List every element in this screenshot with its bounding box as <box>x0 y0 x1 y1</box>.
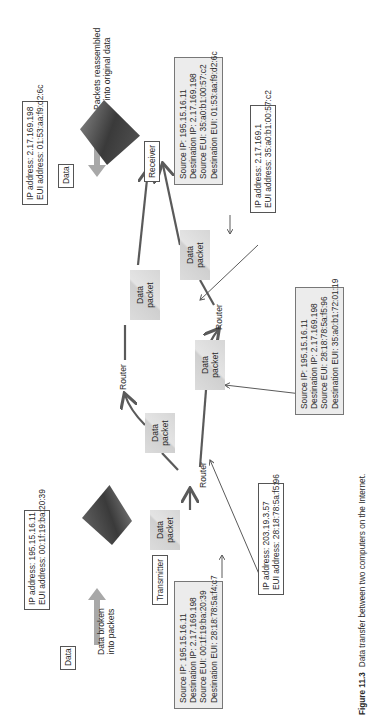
header-destination-eui: Destination EUI: 01:53:aa:f9:d2:6c <box>209 63 219 179</box>
reassembled-label: Packets reassembled into original data <box>92 28 112 110</box>
receiver-label-box: Receiver <box>144 141 160 182</box>
packet-label: Data <box>155 521 165 539</box>
packet-label: packet <box>195 242 205 267</box>
header-source-eui: Source EUI: 00:1f:19:ba:20:39 <box>198 587 208 703</box>
receiver-label: Receiver <box>147 145 157 178</box>
router-3-address-box: IP address: 2.17.169.1 EUI address: 35:a… <box>250 105 276 213</box>
data-packet-2: Data packet <box>145 413 175 453</box>
data-broken-line2: into packets <box>106 608 116 655</box>
reassembled-line1: Packets reassembled <box>92 28 102 110</box>
data-broken-label: Data broken into packets <box>96 608 116 655</box>
packet-label: Data <box>185 246 195 264</box>
header-source-eui: Source EUI: 35:a0:b1:00:57:c2 <box>198 63 208 179</box>
header-source-ip: Source IP: 195.15.16.11 <box>178 63 188 179</box>
transmitter-label: Transmitter <box>155 559 165 601</box>
router-label: Router <box>214 304 224 330</box>
transmitter-packet-header: Source IP: 195.15.16.11 Destination IP: … <box>174 581 223 709</box>
middle-packet-header: Source IP: 195.15.16.11 Destination IP: … <box>295 287 344 415</box>
data-packet-4: Data packet <box>195 340 225 390</box>
header-destination-eui: Destination EUI: 35:a0:b1:72:01:19 <box>330 293 340 409</box>
packet-label: Data <box>200 356 210 374</box>
router-1: Router <box>198 462 208 488</box>
router-2: Router <box>118 364 128 390</box>
receiver-eui: EUI address: 01:53:aa:f9:d2:6c <box>35 106 45 200</box>
router-label: Router <box>118 364 128 390</box>
reassembled-line2: into original data <box>102 28 112 110</box>
router-3: Router <box>214 304 224 330</box>
receiver-data-box: Data <box>58 164 74 188</box>
figure-number: Figure 11.3 <box>358 672 367 715</box>
header-destination-ip: Destination IP: 2.17.169.198 <box>188 587 198 703</box>
router-1-eui: EUI address: 28:18:78:5a:f5:96 <box>271 488 281 590</box>
packet-label: Data <box>135 286 145 304</box>
transmitter-data-box: Data <box>60 646 76 670</box>
receiver-ip: IP address: 2.17.169.198 <box>25 106 35 200</box>
figure-caption-text: Data transfer between two computers on t… <box>358 474 367 667</box>
header-destination-ip: Destination IP: 2.17.169.198 <box>309 293 319 409</box>
figure-caption: Figure 11.3Data transfer between two com… <box>358 474 367 715</box>
data-broken-line1: Data broken <box>96 608 106 655</box>
header-destination-ip: Destination IP: 2.17.169.198 <box>188 63 198 179</box>
transmitter-eui: EUI address: 00:1f:19:ba:20:39 <box>37 515 47 605</box>
network-diagram: IP address: 195.15.16.11 EUI address: 00… <box>0 0 381 725</box>
router-label: Router <box>198 462 208 488</box>
header-source-ip: Source IP: 195.15.16.11 <box>299 293 309 409</box>
receiver-data-label: Data <box>61 166 71 184</box>
transmitter-address-box: IP address: 195.15.16.11 EUI address: 00… <box>24 510 50 610</box>
router-3-eui: EUI address: 35:a0:b1:00:57:c2 <box>263 110 273 208</box>
packet-label: packet <box>210 352 220 377</box>
transmitter-data-label: Data <box>63 648 73 666</box>
header-source-ip: Source IP: 195.15.16.11 <box>178 587 188 703</box>
packet-label: packet <box>165 517 175 542</box>
data-packet-5: Data packet <box>180 230 210 280</box>
header-source-eui: Source EUI: 28:18:78:5a:f5:96 <box>319 293 329 409</box>
transmitter-ip: IP address: 195.15.16.11 <box>27 515 37 605</box>
router-1-address-box: IP address: 203.19.3.57 EUI address: 28:… <box>258 483 284 595</box>
header-destination-eui: Destination EUI: 28:18:78:5a:f4:c7 <box>209 587 219 703</box>
packet-label: packet <box>145 282 155 307</box>
receiver-packet-header: Source IP: 195.15.16.11 Destination IP: … <box>174 57 223 185</box>
data-packet-3: Data packet <box>130 270 160 320</box>
router-3-ip: IP address: 2.17.169.1 <box>253 110 263 208</box>
transmitter-label-box: Transmitter <box>152 555 168 605</box>
packet-label: Data <box>150 424 160 442</box>
router-1-ip: IP address: 203.19.3.57 <box>261 488 271 590</box>
data-packet-1: Data packet <box>150 510 180 550</box>
receiver-address-box: IP address: 2.17.169.198 EUI address: 01… <box>22 101 48 205</box>
packet-label: packet <box>160 420 170 445</box>
